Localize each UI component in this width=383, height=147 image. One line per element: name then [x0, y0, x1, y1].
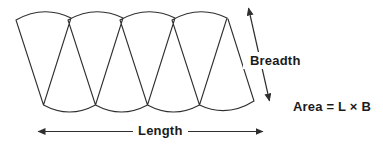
- breadth-label: Breadth: [243, 52, 303, 69]
- length-label: Length: [133, 123, 188, 138]
- cone-area-diagram: Breadth Length Area = L × B: [0, 0, 383, 147]
- area-formula-label: Area = L × B: [293, 99, 371, 114]
- cone-strip: [16, 12, 254, 112]
- diagram-canvas: [0, 0, 383, 147]
